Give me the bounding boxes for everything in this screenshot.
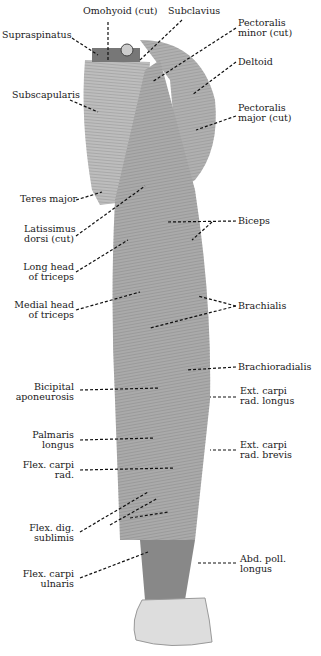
label-pectoralis-major: Pectoralis major (cut) [238,103,292,123]
label-ext-carpi-rad-longus: Ext. carpi rad. longus [240,386,294,406]
label-subscapularis: Subscapularis [12,90,80,100]
label-brachialis: Brachialis [238,301,286,311]
label-deltoid: Deltoid [238,57,273,67]
label-latissimus-dorsi: Latissimus dorsi (cut) [24,224,74,244]
label-long-head-triceps: Long head of triceps [22,262,74,282]
label-abd-poll-longus: Abd. poll. longus [240,554,286,574]
label-brachioradialis: Brachioradialis [238,362,311,372]
label-teres-major: Teres major [20,194,77,204]
label-medial-head-triceps: Medial head of triceps [14,300,74,320]
label-biceps: Biceps [238,216,270,226]
label-flex-carpi-rad: Flex. carpi rad. [20,460,74,480]
label-pectoralis-minor: Pectoralis minor (cut) [238,18,292,38]
label-flex-dig-sublimis: Flex. dig. sublimis [24,523,74,543]
label-ext-carpi-rad-brevis: Ext. carpi rad. brevis [240,440,292,460]
label-palmaris-longus: Palmaris longus [24,430,74,450]
label-omohyoid: Omohyoid (cut) [83,6,158,16]
label-subclavius: Subclavius [168,6,220,16]
label-bicipital-aponeurosis: Bicipital aponeurosis [14,382,74,402]
wrist-shape [134,598,212,646]
label-supraspinatus: Supraspinatus [2,30,72,40]
label-flex-carpi-ulnaris: Flex. carpi ulnaris [20,569,74,589]
